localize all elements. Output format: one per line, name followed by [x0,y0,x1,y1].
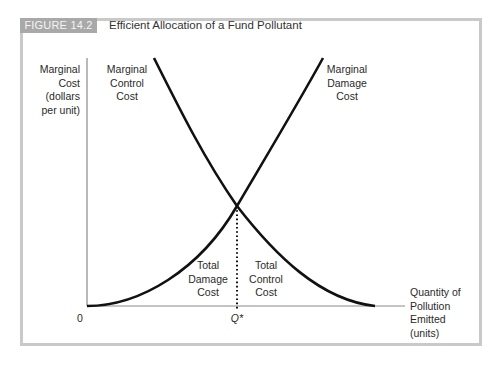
total-damage-cost-label: Total Damage Cost [185,259,231,300]
x-axis-label: Quantity of Pollution Emitted (units) [410,286,480,340]
marginal-control-cost-label: Marginal Control Cost [102,63,152,104]
q-star-label: Q* [226,312,248,326]
y-axis-label: Marginal Cost (dollars per unit) [32,63,80,117]
total-control-cost-label: Total Control Cost [243,259,289,300]
origin-label: 0 [74,312,86,326]
marginal-damage-cost-label: Marginal Damage Cost [322,63,372,104]
